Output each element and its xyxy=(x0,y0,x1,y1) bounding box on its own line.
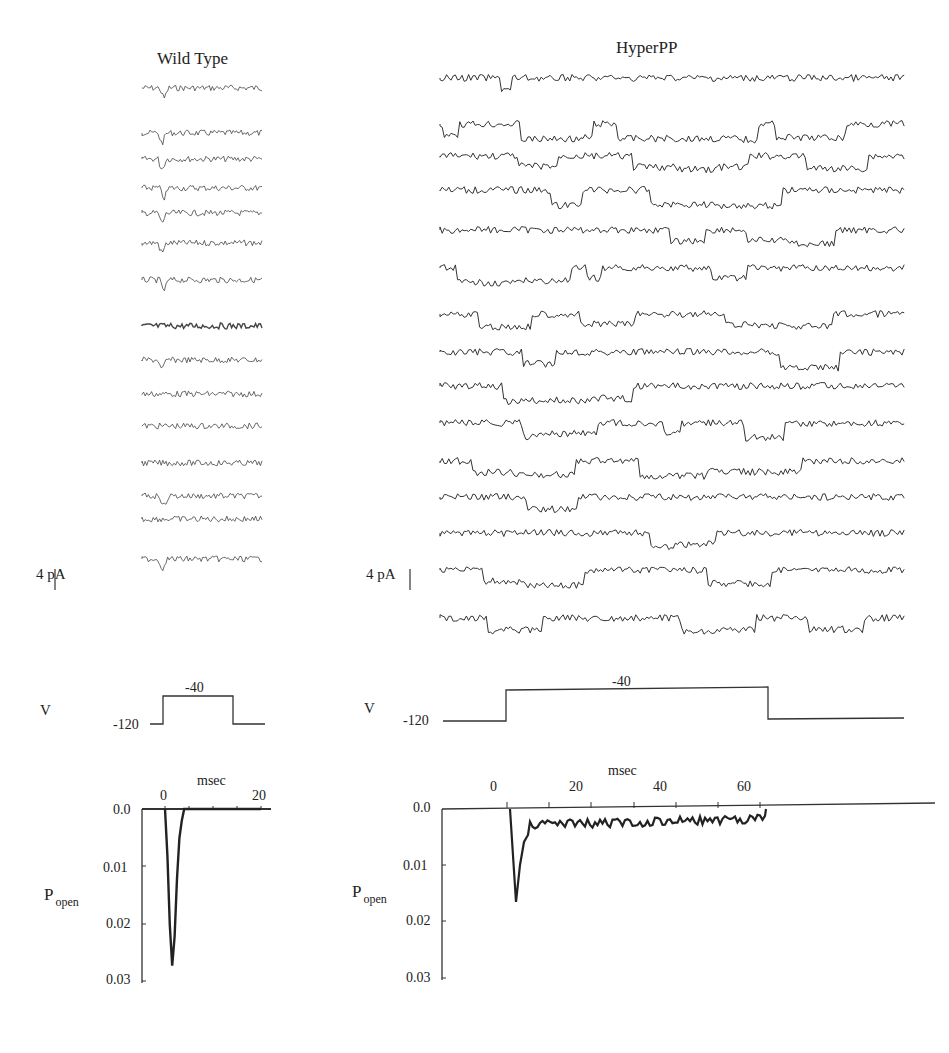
hpp-current-trace xyxy=(440,420,904,442)
hpp-current-trace xyxy=(440,187,904,210)
hpp-current-trace xyxy=(440,567,904,589)
hpp-current-trace xyxy=(440,153,904,173)
hpp-current-trace xyxy=(440,615,904,635)
wt-current-trace xyxy=(142,277,262,291)
wt-current-trace xyxy=(142,210,262,222)
wt-current-trace xyxy=(142,85,262,98)
wt-current-trace xyxy=(142,130,262,145)
wt-current-trace xyxy=(142,391,262,397)
wt-current-trace xyxy=(142,323,262,329)
hpp-current-trace xyxy=(440,311,904,330)
wt-current-trace xyxy=(142,423,262,429)
hpp-current-trace xyxy=(440,227,904,247)
wt-current-trace xyxy=(142,493,262,504)
hpp-popen-line xyxy=(510,809,766,902)
hpp-current-trace xyxy=(440,349,904,372)
hpp-voltage-step xyxy=(443,687,904,721)
wt-current-trace xyxy=(142,185,262,200)
wt-current-trace xyxy=(142,556,262,571)
hpp-current-trace xyxy=(440,530,904,550)
hpp-current-trace xyxy=(440,121,904,144)
hpp-current-trace xyxy=(440,494,904,513)
wt-current-trace xyxy=(142,240,262,252)
wt-current-trace xyxy=(142,357,262,368)
hpp-x-axis xyxy=(442,803,935,809)
wt-current-trace xyxy=(142,516,262,522)
hpp-current-trace xyxy=(440,458,904,480)
wt-current-trace xyxy=(142,156,262,169)
wt-popen-line xyxy=(165,809,261,966)
wt-current-trace xyxy=(142,460,262,466)
wt-voltage-step xyxy=(150,696,265,724)
hpp-current-trace xyxy=(440,75,904,92)
figure-canvas xyxy=(0,0,949,1053)
hpp-current-trace xyxy=(440,265,904,287)
hpp-current-trace xyxy=(440,383,904,405)
